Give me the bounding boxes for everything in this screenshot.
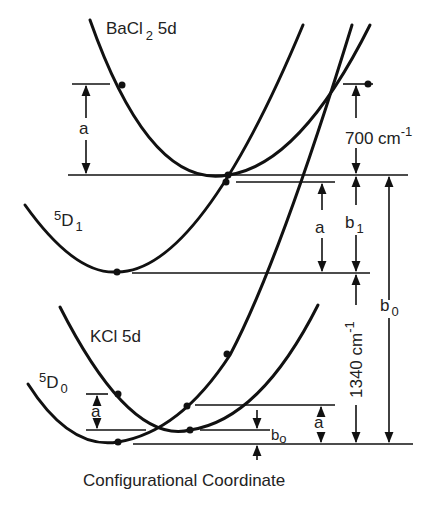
dim-b1-label: b1 xyxy=(345,213,364,236)
x-axis-label: Configurational Coordinate xyxy=(83,471,285,490)
dim-a2-label: a xyxy=(315,218,325,237)
dim-a4-label: a xyxy=(314,413,324,432)
bacl2-5d-label: BaCl2 5d xyxy=(106,19,177,43)
point-marker xyxy=(114,269,121,276)
dim-a-label: a xyxy=(79,119,89,138)
dim-b0-label: b0 xyxy=(380,296,399,319)
5d0-label: 5D0 xyxy=(39,370,68,396)
dim-bo-label: bo xyxy=(271,426,287,446)
point-marker xyxy=(187,427,194,434)
dim-a3-label: a xyxy=(91,402,101,421)
dim-1340-label: 1340 cm-1 xyxy=(342,321,366,398)
point-marker xyxy=(119,82,126,89)
5d1-label: 5D1 xyxy=(54,208,83,234)
point-marker xyxy=(115,439,122,446)
point-marker xyxy=(184,403,191,410)
dim-700-label: 700 cm-1 xyxy=(345,124,412,148)
point-marker xyxy=(224,351,231,358)
kcl-5d-label: KCl 5d xyxy=(90,327,141,346)
5d1-curve xyxy=(25,25,303,272)
point-marker xyxy=(115,391,122,398)
configurational-coordinate-diagram: a 700 cm-1 a b1 1340 cm-1 b0 a a bo BaCl… xyxy=(0,0,435,506)
point-marker xyxy=(223,179,230,186)
